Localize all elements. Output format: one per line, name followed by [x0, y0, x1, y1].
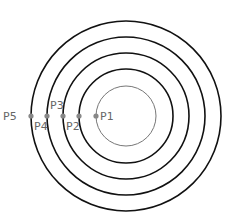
point-label-p5: P5 [3, 110, 17, 123]
point-p4 [44, 113, 49, 118]
circle-c3 [63, 53, 189, 179]
point-label-p1: P1 [100, 110, 114, 123]
point-label-p3: P3 [50, 99, 64, 112]
point-label-p2: P2 [66, 120, 80, 133]
point-p5 [28, 113, 33, 118]
point-p3 [60, 113, 65, 118]
point-p1 [93, 113, 98, 118]
point-label-p4: P4 [34, 120, 48, 133]
circle-c5 [31, 21, 221, 211]
point-p2 [76, 113, 81, 118]
circle-c2 [79, 69, 173, 163]
concentric-circles-diagram: P1 P2 P3 P4 P5 [0, 0, 231, 223]
circle-c4 [47, 37, 205, 195]
